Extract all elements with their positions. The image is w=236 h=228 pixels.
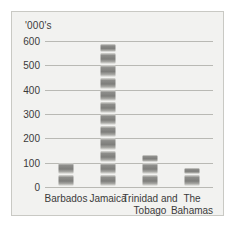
bar-segment — [143, 163, 158, 174]
y-axis-tick-label: 500 — [23, 60, 40, 71]
chart-figure: '000's 0100200300400500600BarbadosJamaic… — [11, 11, 224, 216]
bar-segment — [185, 168, 200, 174]
bar-segment — [185, 175, 200, 186]
bar[interactable] — [59, 163, 74, 187]
bar[interactable] — [185, 168, 200, 187]
y-axis-tick-label: 200 — [23, 133, 40, 144]
y-axis-tick-label: 600 — [23, 36, 40, 47]
y-axis-tick-label: 100 — [23, 157, 40, 168]
y-axis-tick-label: 400 — [23, 84, 40, 95]
bar-group: Trinidad and Tobago — [129, 41, 171, 187]
bar-segment — [101, 44, 116, 53]
bar-segment — [101, 138, 116, 149]
bar-segment — [101, 163, 116, 174]
bar-segment — [143, 155, 158, 161]
y-axis-tick-label: 0 — [34, 182, 40, 193]
bar-group: The Bahamas — [171, 41, 213, 187]
bar-segment — [101, 90, 116, 101]
bar-segment — [101, 78, 116, 89]
bar-segment — [101, 151, 116, 162]
y-axis-tick-label: 300 — [23, 109, 40, 120]
bar-segment — [101, 175, 116, 186]
bar-segment — [101, 126, 116, 137]
bar-segment — [143, 175, 158, 186]
plot-area: 0100200300400500600BarbadosJamaicaTrinid… — [45, 41, 213, 187]
x-axis-tick-label: The Bahamas — [161, 193, 223, 216]
bar[interactable] — [143, 155, 158, 187]
bar-group: Jamaica — [87, 41, 129, 187]
bar[interactable] — [101, 43, 116, 187]
y-axis-unit-label: '000's — [25, 20, 52, 31]
bar-segment — [101, 114, 116, 125]
bar-segment — [101, 53, 116, 64]
bar-segment — [59, 175, 74, 186]
gridline: 0 — [45, 187, 213, 188]
bar-segment — [101, 102, 116, 113]
bar-segment — [101, 65, 116, 76]
bar-group: Barbados — [45, 41, 87, 187]
bar-segment — [59, 163, 74, 174]
